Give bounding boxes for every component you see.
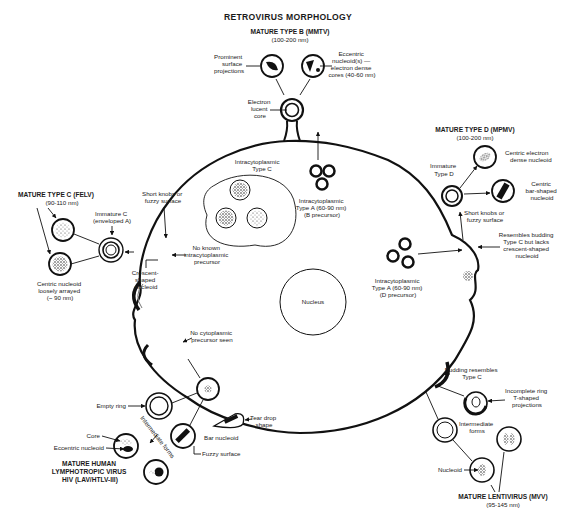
leader-fuzzy	[194, 446, 201, 454]
connector-mvv-left	[491, 485, 495, 492]
hiv-mature-particle	[144, 460, 168, 484]
electron-lucent-label: Electron lucent core	[248, 98, 272, 119]
intra-type-a-d-particles	[388, 239, 414, 268]
arrow-a-to-d-budding	[418, 250, 462, 254]
leader-crescent	[146, 260, 158, 268]
type-c-centric-label: Centric nucleoid loosely arrayed (~ 90 n…	[37, 280, 83, 301]
nucleus-label: Nucleus	[302, 298, 324, 305]
bar-nucleoid-label: Bar nucleoid	[204, 434, 239, 441]
arrow-c-knobs	[164, 207, 166, 238]
mature-type-d-bar	[492, 180, 514, 202]
crescent-label: Crescent- shaped nucleoid	[132, 269, 161, 290]
intra-type-a-b-label: Intracytoplasmic Type A (60-90 nm) (B pr…	[296, 197, 348, 218]
intra-type-a-d-label: Intracytoplasmic Type A (60-90 nm) (D pr…	[372, 277, 424, 298]
mature-type-d-dense	[474, 146, 496, 168]
mature-type-b-left	[261, 55, 283, 77]
immature-type-d-label: Immature Type D	[430, 162, 458, 177]
no-cyto-label: No cytoplasmic precursor seen	[190, 329, 234, 343]
nucleoid-label: Nucleoid	[438, 466, 463, 473]
no-known-precursor-label: No known intracytoplasmic precursor	[184, 244, 230, 265]
arrow-d-dense	[460, 166, 477, 188]
empty-ring-label: Empty ring	[96, 402, 126, 409]
lenti-intermediate	[433, 418, 457, 442]
hiv-bar-nucleoid	[171, 424, 195, 448]
type-c-size: (90-110 nm)	[45, 199, 78, 206]
mature-type-c-lower	[49, 253, 71, 275]
type-d-resembles-label: Resembles budding Type C but lacks cresc…	[499, 231, 555, 259]
connector-b-left	[276, 79, 284, 95]
mature-type-c-upper	[52, 219, 74, 241]
lenti-budding-label: Budding resembles Type C	[445, 366, 500, 380]
connector-lenti-intermediate	[426, 392, 438, 419]
cell-membrane	[133, 141, 478, 433]
diagram-title: RETROVIRUS MORPHOLOGY	[224, 12, 352, 22]
type-b-size: (100-200 nm)	[271, 36, 308, 43]
type-d-knobs-label: Short knobs or fuzzy surface	[464, 209, 506, 223]
connector-mvv-right	[499, 452, 504, 492]
connector-hiv-top	[188, 359, 200, 378]
fuzzy-surface-label: Fuzzy surface	[202, 450, 241, 457]
arrow-c-lower	[37, 208, 50, 254]
lenti-size: (95-145 nm)	[486, 501, 520, 508]
connector-incomplete	[438, 386, 464, 396]
hiv-empty-ring	[146, 393, 172, 419]
connector-c-lower	[71, 256, 99, 264]
hiv-budding-region	[144, 345, 152, 365]
type-d-heading: MATURE TYPE D (MPMV)	[435, 126, 514, 134]
type-b-nucleoid-label: Eccentric nucleoid(s) — electron dense c…	[328, 50, 375, 78]
arrow-c-upper	[48, 208, 56, 218]
intra-type-a-b-particles	[311, 166, 335, 190]
eccentric-nucleoid-label: Eccentric nucleoid	[54, 444, 105, 451]
type-b-surface-label: Prominent surface projections	[214, 53, 244, 74]
immature-type-d	[442, 186, 462, 206]
immature-type-c-label: Immature C (enveloped A)	[93, 210, 131, 224]
lenti-incomplete-ring	[465, 392, 487, 414]
type-b-heading: MATURE TYPE B (MMTV)	[251, 28, 330, 36]
budding-hiv	[197, 378, 219, 400]
immature-type-c	[99, 238, 123, 262]
intra-type-c-label: Intracytoplasmic Type C	[235, 158, 281, 172]
centric-dense-label: Centric electron dense nucleoid	[505, 149, 552, 163]
arrow-incomplete	[488, 400, 505, 401]
connector-lenti-nucleoid	[453, 440, 472, 461]
budding-type-b	[281, 99, 303, 141]
core-label: Core	[87, 432, 101, 439]
lenti-intermediate-label: Intermediate forms	[459, 420, 495, 434]
retrovirus-morphology-diagram: RETROVIRUS MORPHOLOGY Nucleus Intracytop…	[0, 0, 577, 525]
connector-c-upper	[74, 234, 99, 244]
lenti-heading: MATURE LENTIVIRUS (MVV)	[458, 493, 547, 501]
centric-bar-label: Centric bar-shaped nucleoid	[525, 180, 558, 201]
arrow-d-bar	[464, 193, 490, 194]
intra-type-c-particles	[216, 180, 267, 228]
type-d-size: (100-200 nm)	[456, 134, 493, 141]
connector-b-right	[300, 79, 310, 95]
arrow-d-knobs	[460, 212, 463, 240]
hiv-core-particle	[114, 434, 138, 458]
type-c-knobs-label: Short knobs or fuzzy surface	[142, 190, 184, 204]
type-d-budding-stipple	[463, 271, 473, 281]
hiv-heading: MATURE HUMAN LYMPHOTROPIC VIRUS HIV (LAV…	[52, 460, 128, 484]
lenti-mature-right	[497, 427, 521, 451]
type-c-heading: MATURE TYPE C (FELV)	[18, 191, 94, 199]
incomplete-ring-label: Incomplete ring T-shaped projections	[505, 387, 549, 408]
